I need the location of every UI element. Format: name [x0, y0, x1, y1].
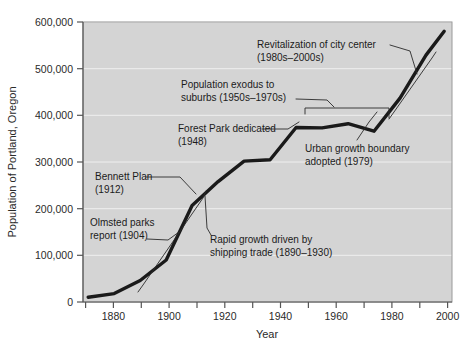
annotation-rapid-growth-line1: Rapid growth driven by	[210, 234, 312, 245]
annotation-bennett-plan-line1: Bennett Plan	[95, 171, 152, 182]
y-tick-label-100000: 100,000	[35, 249, 73, 261]
annotation-olmsted-parks-line1: Olmsted parks	[90, 217, 154, 228]
y-axis	[77, 22, 83, 302]
annotation-urban-growth-boundary-line1: Urban growth boundary	[305, 143, 410, 154]
x-tick-label-1900: 1900	[157, 310, 181, 322]
x-axis-title: Year	[256, 328, 279, 340]
annotation-olmsted-parks-line2: report (1904)	[90, 230, 148, 241]
annotation-population-exodus-line1: Population exodus to	[181, 79, 275, 90]
x-tick-label-1960: 1960	[325, 310, 349, 322]
annotation-rapid-growth-line2: shipping trade (1890–1930)	[210, 247, 332, 258]
x-tick-label-1940: 1940	[269, 310, 293, 322]
x-axis	[83, 302, 452, 308]
annotation-revitalization-line2: (1980s–2000s)	[257, 52, 324, 63]
y-tick-label-400000: 400,000	[35, 109, 73, 121]
x-tick-label-1880: 1880	[102, 310, 126, 322]
annotation-forest-park-line1: Forest Park dedicated	[178, 123, 276, 134]
x-tick-label-2000: 2000	[436, 310, 460, 322]
y-tick-label-500000: 500,000	[35, 63, 73, 75]
x-tick-label-1980: 1980	[380, 310, 404, 322]
y-tick-label-600000: 600,000	[35, 16, 73, 28]
y-tick-label-200000: 200,000	[35, 203, 73, 215]
y-tick-label-300000: 300,000	[35, 156, 73, 168]
annotation-bennett-plan-line2: (1912)	[95, 184, 124, 195]
annotation-urban-growth-boundary-line2: adopted (1979)	[305, 156, 373, 167]
y-tick-label-0: 0	[67, 296, 73, 308]
population-chart-figure: 0 100,000 200,000 300,000 400,000 500,00…	[0, 0, 470, 350]
y-axis-title: Population of Portland, Oregon	[6, 86, 18, 237]
annotation-revitalization-line1: Revitalization of city center	[257, 39, 377, 50]
x-tick-label-1920: 1920	[213, 310, 237, 322]
annotation-forest-park-line2: (1948)	[178, 136, 207, 147]
annotation-population-exodus-line2: suburbs (1950s–1970s)	[181, 92, 286, 103]
